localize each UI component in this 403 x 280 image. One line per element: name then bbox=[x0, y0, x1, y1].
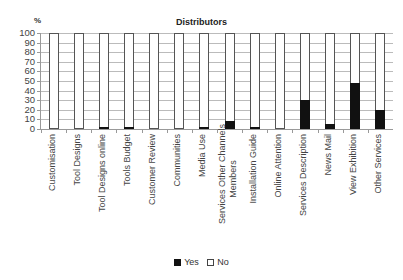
bar-customer-review bbox=[149, 33, 159, 129]
bar-segment-yes bbox=[99, 127, 109, 129]
y-tick-label: 40 bbox=[4, 86, 35, 96]
x-axis-label: Services Other ChannelsMembers bbox=[217, 134, 241, 224]
bar-segment-yes bbox=[325, 124, 335, 129]
x-axis-label-line: Media Use bbox=[197, 134, 208, 224]
y-tick-mark bbox=[37, 91, 41, 92]
bar-installation-guide bbox=[250, 33, 260, 129]
x-axis-label: Media Use bbox=[197, 134, 209, 224]
x-axis-label-line: Other Services bbox=[373, 134, 384, 224]
x-axis-label-line: Communities bbox=[172, 134, 183, 224]
y-tick-mark bbox=[37, 110, 41, 111]
bar-services-other-channels-members bbox=[225, 33, 235, 129]
gridline bbox=[41, 71, 393, 72]
y-tick-label: 30 bbox=[4, 95, 35, 105]
x-axis-label-line: Services Description bbox=[298, 134, 309, 224]
x-tick-mark bbox=[91, 129, 92, 133]
x-tick-mark bbox=[192, 129, 193, 133]
gridline bbox=[41, 52, 393, 53]
x-axis-label: Communities bbox=[172, 134, 184, 224]
bar-online-attention bbox=[275, 33, 285, 129]
x-axis-label: Customer Review bbox=[147, 134, 159, 224]
gridline bbox=[41, 62, 393, 63]
x-axis-label: Other Services bbox=[373, 134, 385, 224]
x-axis-label-line: News Mail bbox=[323, 134, 334, 224]
x-axis-label-line: Tool Designs bbox=[72, 134, 83, 224]
y-tick-label: 90 bbox=[4, 38, 35, 48]
x-axis-label: News Mail bbox=[323, 134, 335, 224]
bar-segment-yes bbox=[250, 127, 260, 129]
y-tick-label: 70 bbox=[4, 57, 35, 67]
bar-other-services bbox=[375, 33, 385, 129]
gridline bbox=[41, 110, 393, 111]
x-tick-mark bbox=[267, 129, 268, 133]
y-tick-mark bbox=[37, 52, 41, 53]
bar-tool-designs bbox=[74, 33, 84, 129]
legend-swatch-yes bbox=[174, 259, 181, 266]
gridline bbox=[41, 100, 393, 101]
bar-services-description bbox=[300, 33, 310, 129]
y-tick-mark bbox=[37, 81, 41, 82]
y-tick-label: 0 bbox=[4, 124, 35, 134]
x-axis-label: View Exhibition bbox=[348, 134, 360, 224]
x-axis-label-line: Services Other Channels bbox=[217, 134, 228, 224]
plot-area: 0102030405060708090100 bbox=[40, 33, 393, 130]
bar-segment-yes bbox=[199, 127, 209, 129]
x-axis-label: Tool Designs bbox=[72, 134, 84, 224]
x-axis-label-line: Installation Guide bbox=[248, 134, 259, 224]
legend: Yes No bbox=[0, 257, 403, 268]
x-tick-mark bbox=[368, 129, 369, 133]
bar-segment-yes bbox=[375, 110, 385, 129]
x-axis-label-line: Customer Review bbox=[147, 134, 158, 224]
x-tick-mark bbox=[167, 129, 168, 133]
x-axis-label-line: Tool Designs online bbox=[97, 134, 108, 224]
bar-view-exhibition bbox=[350, 33, 360, 129]
x-axis-label: Tools Budget bbox=[122, 134, 134, 224]
x-tick-mark bbox=[292, 129, 293, 133]
bar-tools-budget bbox=[124, 33, 134, 129]
legend-item-no: No bbox=[207, 257, 229, 267]
y-tick-label: 10 bbox=[4, 114, 35, 124]
bar-segment-yes bbox=[300, 100, 310, 129]
legend-swatch-no bbox=[207, 259, 214, 266]
x-axis-label: Customisation bbox=[47, 134, 59, 224]
bar-news-mail bbox=[325, 33, 335, 129]
bar-segment-yes bbox=[124, 127, 134, 129]
x-tick-mark bbox=[242, 129, 243, 133]
bar-segment-yes bbox=[350, 83, 360, 129]
y-tick-mark bbox=[37, 71, 41, 72]
y-tick-mark bbox=[37, 119, 41, 120]
x-axis-label-line: Online Attention bbox=[273, 134, 284, 224]
legend-label-no: No bbox=[217, 257, 229, 267]
x-tick-mark bbox=[142, 129, 143, 133]
y-tick-label: 50 bbox=[4, 76, 35, 86]
gridline bbox=[41, 43, 393, 44]
y-tick-mark bbox=[37, 62, 41, 63]
x-tick-mark bbox=[41, 129, 42, 133]
y-tick-label: 80 bbox=[4, 47, 35, 57]
y-tick-label: 60 bbox=[4, 66, 35, 76]
gridline bbox=[41, 119, 393, 120]
y-tick-mark bbox=[37, 43, 41, 44]
x-axis-label-line: Tools Budget bbox=[122, 134, 133, 224]
x-tick-mark bbox=[318, 129, 319, 133]
x-tick-mark bbox=[116, 129, 117, 133]
stacked-bar-chart: Distributors % 0102030405060708090100 Cu… bbox=[0, 0, 403, 280]
y-tick-label: 20 bbox=[4, 105, 35, 115]
bar-customisation bbox=[49, 33, 59, 129]
x-axis-label-line: Customisation bbox=[47, 134, 58, 224]
x-axis-label: Online Attention bbox=[273, 134, 285, 224]
bar-media-use bbox=[199, 33, 209, 129]
gridline bbox=[41, 33, 393, 34]
legend-item-yes: Yes bbox=[174, 257, 199, 267]
legend-label-yes: Yes bbox=[184, 257, 199, 267]
y-tick-label: 100 bbox=[4, 28, 35, 38]
x-axis-label: Services Description bbox=[298, 134, 310, 224]
x-tick-mark bbox=[343, 129, 344, 133]
x-axis-label-line: View Exhibition bbox=[348, 134, 359, 224]
x-axis-label: Tool Designs online bbox=[97, 134, 109, 224]
y-tick-mark bbox=[37, 100, 41, 101]
gridline bbox=[41, 91, 393, 92]
bar-tool-designs-online bbox=[99, 33, 109, 129]
chart-title: Distributors bbox=[0, 17, 403, 27]
gridline bbox=[41, 81, 393, 82]
